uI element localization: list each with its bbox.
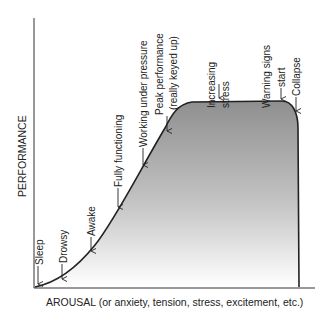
annotation-increasing-stress-line1: Increasing xyxy=(206,62,217,108)
annotation-warning-signs-line2: start xyxy=(276,67,287,87)
annotation-peak-performance-line1: Peak performance xyxy=(154,33,165,115)
annotation-peak-performance-line2: (really keyed up) xyxy=(168,36,179,110)
annotation-sleep: Sleep xyxy=(34,239,45,265)
y-axis-label: PERFORMANCE xyxy=(16,115,28,197)
annotation-fully-functioning: Fully functioning xyxy=(113,115,124,187)
annotation-awake: Awake xyxy=(86,206,97,236)
performance-arousal-diagram: PERFORMANCE AROUSAL (or anxiety, tension… xyxy=(0,0,329,316)
annotation-warning-signs-line1: Warning signs xyxy=(261,45,272,108)
annotation-collapse: Collapse xyxy=(291,57,302,96)
x-axis-label: AROUSAL (or anxiety, tension, stress, ex… xyxy=(46,296,303,308)
annotation-drowsy: Drowsy xyxy=(58,230,69,263)
annotation-working-under-pressure: Working under pressure xyxy=(138,40,149,147)
annotation-increasing-stress-line2: stress xyxy=(220,81,231,108)
